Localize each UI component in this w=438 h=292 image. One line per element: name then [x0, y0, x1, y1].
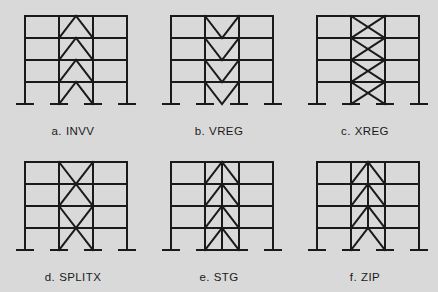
frame-label-stg: STG: [214, 271, 239, 283]
frame-letter-invv: a.: [52, 125, 62, 137]
figure-sheet: a.INVV: [0, 0, 438, 292]
frame-label-xreg: XREG: [355, 125, 389, 137]
frame-caption-zip: f.ZIP: [350, 271, 380, 283]
frame-label-invv: INVV: [66, 125, 94, 137]
frame-label-zip: ZIP: [361, 271, 380, 283]
frame-label-splitx: SPLITX: [59, 271, 101, 283]
frame-caption-splitx: d.SPLITX: [45, 271, 101, 283]
frame-diagram-invv: [7, 8, 139, 124]
frame-letter-zip: f.: [350, 271, 357, 283]
frame-label-vreg: VREG: [209, 125, 243, 137]
frame-diagram-zip: [299, 154, 431, 270]
frame-cell-xreg: c.XREG: [292, 0, 438, 146]
frame-diagram-vreg: [153, 8, 285, 124]
frame-diagram-splitx: [7, 154, 139, 270]
frame-letter-splitx: d.: [45, 271, 55, 283]
frame-cell-zip: f.ZIP: [292, 146, 438, 292]
frame-caption-stg: e.STG: [199, 271, 238, 283]
frame-cell-vreg: b.VREG: [146, 0, 292, 146]
frame-caption-xreg: c.XREG: [341, 125, 389, 137]
frame-cell-invv: a.INVV: [0, 0, 146, 146]
frame-letter-xreg: c.: [341, 125, 351, 137]
frame-letter-stg: e.: [199, 271, 209, 283]
frame-diagram-xreg: [299, 8, 431, 124]
frame-caption-invv: a.INVV: [52, 125, 95, 137]
frame-diagram-stg: [153, 154, 285, 270]
frame-cell-stg: e.STG: [146, 146, 292, 292]
frame-caption-vreg: b.VREG: [195, 125, 244, 137]
frame-grid: a.INVV: [0, 0, 438, 292]
frame-cell-splitx: d.SPLITX: [0, 146, 146, 292]
frame-letter-vreg: b.: [195, 125, 205, 137]
